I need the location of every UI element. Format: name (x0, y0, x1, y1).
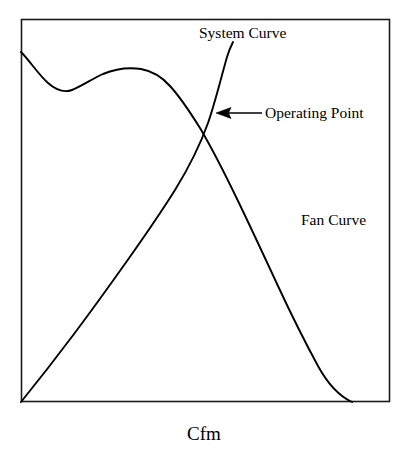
chart-figure: Pressure System Curve Operating Point Fa… (0, 0, 408, 452)
fan-curve-label: Fan Curve (301, 211, 366, 229)
system-curve-label: System Curve (199, 24, 286, 42)
operating-point-label: Operating Point (265, 104, 364, 122)
x-axis-label: Cfm (0, 423, 408, 445)
